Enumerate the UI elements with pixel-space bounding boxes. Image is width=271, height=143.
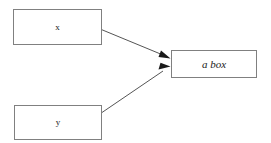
diagram-canvas: x y a box <box>0 0 271 143</box>
node-label-x: x <box>55 23 60 32</box>
node-box-y[interactable]: y <box>14 105 102 140</box>
node-box-a-box[interactable]: a box <box>171 50 257 78</box>
node-label-a-box: a box <box>202 59 226 70</box>
node-label-y: y <box>56 118 61 127</box>
arrowhead-x-to-abox <box>159 51 171 59</box>
node-box-x[interactable]: x <box>13 9 102 45</box>
arrowhead-y-to-abox <box>159 63 171 70</box>
